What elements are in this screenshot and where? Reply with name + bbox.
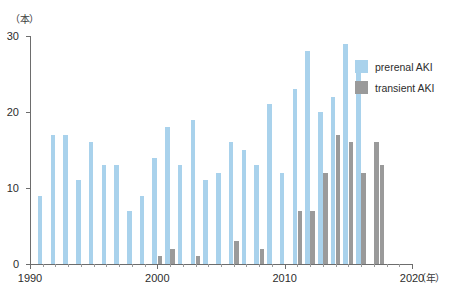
x-tick-minor-2001 [170,264,171,267]
legend-label: transient AKI [375,82,435,94]
bar-prerenal-2002 [178,165,183,264]
y-tick-label-0: 0 [13,258,19,270]
x-tick-1990 [30,264,31,269]
y-axis-line [30,36,31,264]
bar-prerenal-1999 [140,196,145,264]
bar-transient-2013 [323,173,328,264]
x-tick-2010 [285,264,286,269]
y-axis-unit-label: （本） [10,11,39,26]
bar-prerenal-2000 [152,158,157,264]
bar-prerenal-2015 [343,44,348,264]
x-tick-minor-2013 [323,264,324,267]
legend-swatch-icon [355,81,368,94]
x-tick-minor-2007 [246,264,247,267]
bar-prerenal-1992 [51,135,56,264]
bar-transient-2006 [234,241,239,264]
bar-transient-2000 [158,256,163,264]
x-tick-minor-1999 [145,264,146,267]
x-tick-minor-2012 [310,264,311,267]
x-tick-minor-2018 [387,264,388,267]
bar-transient-2003 [196,256,201,264]
bar-prerenal-2001 [165,127,170,264]
x-tick-minor-2004 [208,264,209,267]
chart-container: （本） （年） 0102030 1990200020102020 prerena… [0,0,461,293]
legend-swatch-icon [355,60,368,73]
bar-prerenal-2004 [203,180,208,264]
x-tick-minor-1998 [132,264,133,267]
bar-prerenal-2012 [305,51,310,264]
chart-legend: prerenal AKItransient AKI [355,60,435,94]
bar-prerenal-1998 [127,211,132,264]
bar-prerenal-2005 [216,173,221,264]
bar-prerenal-1996 [102,165,107,264]
x-tick-minor-2016 [361,264,362,267]
bar-prerenal-2010 [280,173,285,264]
x-tick-minor-1995 [94,264,95,267]
bar-prerenal-2013 [318,112,323,264]
bar-prerenal-2009 [267,104,272,264]
bar-prerenal-2008 [254,165,259,264]
bar-transient-2012 [310,211,315,264]
y-tick-label-30: 30 [7,30,19,42]
y-tick-label-20: 20 [7,106,19,118]
legend-item-prerenal-aki[interactable]: prerenal AKI [355,60,435,73]
x-tick-label-2000: 2000 [145,272,169,284]
bar-prerenal-2003 [191,120,196,264]
x-tick-minor-1997 [119,264,120,267]
x-tick-label-2010: 2010 [272,272,296,284]
bar-prerenal-1995 [89,142,94,264]
bar-transient-trailing-2017 [380,165,385,264]
y-tick-label-10: 10 [7,182,19,194]
x-tick-label-1990: 1990 [18,272,42,284]
x-tick-2000 [157,264,158,269]
x-tick-minor-2003 [196,264,197,267]
y-tick-30: 30 [26,36,31,37]
x-tick-minor-2005 [221,264,222,267]
x-tick-minor-1994 [81,264,82,267]
x-tick-minor-1991 [43,264,44,267]
x-tick-minor-2008 [259,264,260,267]
y-tick-20: 20 [26,112,31,113]
x-tick-minor-1996 [106,264,107,267]
x-tick-minor-2009 [272,264,273,267]
bar-transient-2016 [361,173,366,264]
bar-prerenal-2014 [331,97,336,264]
bar-transient-2011 [298,211,303,264]
bar-prerenal-2007 [242,150,247,264]
bar-transient-2017 [374,142,379,264]
x-tick-minor-2017 [374,264,375,267]
legend-item-transient-aki[interactable]: transient AKI [355,81,435,94]
bar-prerenal-1991 [38,196,43,264]
x-tick-minor-2011 [297,264,298,267]
x-tick-minor-2019 [399,264,400,267]
bar-prerenal-2016 [356,66,361,264]
bar-prerenal-1993 [63,135,68,264]
x-tick-minor-2006 [234,264,235,267]
bar-prerenal-2006 [229,142,234,264]
x-tick-minor-2002 [183,264,184,267]
bar-transient-2014 [336,135,341,264]
x-tick-minor-2015 [348,264,349,267]
bar-transient-2008 [260,249,265,264]
bar-transient-2001 [170,249,175,264]
x-tick-2020 [412,264,413,269]
x-tick-minor-1992 [55,264,56,267]
bar-transient-2015 [349,142,354,264]
legend-label: prerenal AKI [375,61,433,73]
y-tick-10: 10 [26,188,31,189]
x-tick-label-2020: 2020 [400,272,424,284]
bar-prerenal-2011 [293,89,298,264]
x-tick-minor-2014 [336,264,337,267]
x-tick-minor-1993 [68,264,69,267]
bar-prerenal-1994 [76,180,81,264]
bar-prerenal-1997 [114,165,119,264]
